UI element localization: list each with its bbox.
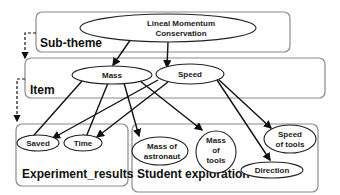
node-mass-tools-line1: Mass	[206, 136, 227, 145]
group-label-sub-theme: Sub-theme	[40, 36, 102, 50]
group-label-item: Item	[30, 83, 55, 97]
node-speed-label: Speed	[178, 70, 202, 79]
node-mass-astronaut-line1: Mass of	[147, 142, 177, 151]
edge-root-speed	[167, 42, 168, 67]
node-direction-label: Direction	[255, 166, 290, 175]
node-speed-tools-line2: of tools	[276, 140, 305, 149]
group-label-experiment-results: Experiment_results	[22, 167, 134, 181]
node-speed-tools-line1: Speed	[278, 130, 302, 139]
node-mass-label: Mass	[102, 71, 123, 80]
node-saved-label: Saved	[26, 139, 50, 148]
group-label-student-exploration: Student exploration	[137, 167, 250, 181]
dashed-arrow-subtheme-item	[25, 33, 36, 58]
concept-diagram: Sub-theme Item Experiment_results Studen…	[0, 0, 340, 195]
node-mass-tools-line2: of	[212, 146, 220, 155]
node-root-line1: Lineal Momentum	[147, 19, 215, 28]
node-mass-tools-line3: tools	[206, 156, 226, 165]
dashed-arrow-item-experiment	[17, 79, 25, 121]
node-mass-astronaut-line2: astronaut	[144, 152, 181, 161]
node-time-label: Time	[74, 139, 93, 148]
node-root-line2: Conservation	[155, 29, 206, 38]
